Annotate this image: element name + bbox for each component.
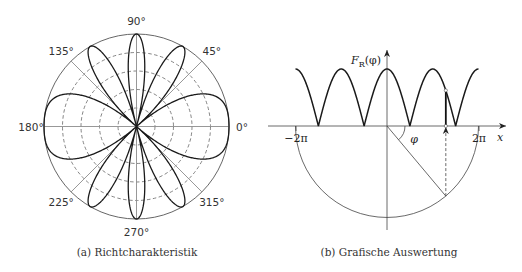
caption-a: (a) Richtcharakteristik (77, 246, 198, 258)
angle-label-0: 0° (236, 121, 248, 133)
value-point-marker (444, 89, 447, 92)
angle-arc (399, 126, 405, 140)
polar-grid (44, 34, 229, 219)
x-axis-label: x (497, 131, 504, 144)
angle-label-225: 225° (49, 196, 74, 208)
y-axis-label: FR(φ) (350, 54, 381, 69)
angle-label-45: 45° (202, 45, 221, 57)
angle-label-270: 270° (124, 226, 149, 238)
angle-phi-label: φ (410, 133, 418, 146)
angle-label-135: 135° (49, 45, 74, 57)
angle-label-90: 90° (127, 15, 146, 27)
tick-label-2pi: 2π (472, 132, 486, 145)
angle-label-180: 180° (18, 121, 43, 133)
graphical-evaluation-panel: FR(φ) x −2π 2π φ (b) Grafische Auswertun… (268, 50, 506, 258)
polar-plot-panel: 0°45°90°135°180°225°270°315° (a) Richtch… (18, 15, 248, 258)
projection-point-marker (444, 124, 447, 127)
caption-b: (b) Grafische Auswertung (321, 246, 458, 258)
angle-label-315: 315° (199, 196, 224, 208)
tick-label-minus-2pi: −2π (284, 132, 307, 145)
figure: 0°45°90°135°180°225°270°315° (a) Richtch… (0, 0, 522, 272)
